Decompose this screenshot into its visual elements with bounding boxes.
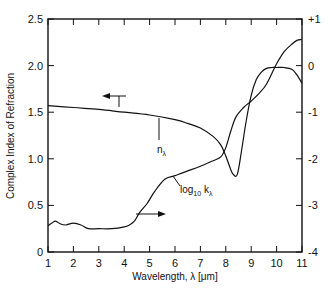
- y-left-tick-label: 1.5: [28, 106, 43, 118]
- log10-k-lambda-curve: [48, 40, 302, 229]
- y-right-tick-label: -3: [308, 199, 318, 211]
- x-tick-label: 9: [248, 257, 254, 269]
- log-k-annotation: log10 kλ: [136, 176, 213, 217]
- x-tick-label: 1: [45, 257, 51, 269]
- y-left-tick-label: 0.5: [28, 199, 43, 211]
- x-tick-label: 6: [172, 257, 178, 269]
- left-arrow-icon: [102, 93, 110, 99]
- x-tick-label: 10: [270, 257, 282, 269]
- x-tick-label: 11: [296, 257, 307, 269]
- y-right-tick-label: -4: [308, 246, 318, 258]
- x-tick-label: 3: [96, 257, 102, 269]
- left-y-axis-ticks: 00.51.01.52.02.5: [28, 13, 54, 258]
- y-right-tick-label: -2: [308, 153, 318, 165]
- y-left-tick-label: 2.0: [28, 60, 43, 72]
- y-axis-title: Complex Index of Refraction: [5, 73, 16, 199]
- n-lambda-annotation: nλ: [102, 93, 167, 157]
- y-left-tick-label: 2.5: [28, 13, 43, 25]
- k-label-leader: [173, 176, 180, 186]
- x-tick-label: 5: [147, 257, 153, 269]
- y-left-tick-label: 0: [37, 246, 43, 258]
- x-tick-label: 7: [197, 257, 203, 269]
- y-right-tick-label: -1: [308, 106, 318, 118]
- x-axis-title: Wavelength, λ [μm]: [132, 271, 218, 282]
- n-label-subscript: λ: [163, 150, 167, 157]
- n-lambda-curve: [48, 67, 302, 176]
- plot-frame: [48, 19, 302, 252]
- x-tick-label: 8: [223, 257, 229, 269]
- y-left-tick-label: 1.0: [28, 153, 43, 165]
- right-y-axis-ticks: -4-3-2-10+1: [296, 13, 321, 258]
- k-label-log: log: [180, 184, 193, 195]
- k-label-subscript: λ: [209, 190, 213, 197]
- x-tick-label: 2: [70, 257, 76, 269]
- svg-text:nλ: nλ: [157, 144, 167, 157]
- n-arrow-leader: [119, 96, 126, 107]
- x-axis-ticks: 1234567891011: [45, 19, 308, 269]
- k-label-base: 10: [193, 190, 201, 197]
- right-arrow-icon: [158, 211, 166, 217]
- x-tick-label: 4: [121, 257, 127, 269]
- y-right-tick-label: +1: [308, 13, 321, 25]
- chart: 1234567891011 00.51.01.52.02.5 -4-3-2-10…: [0, 0, 333, 301]
- y-right-tick-label: 0: [308, 60, 314, 72]
- svg-text:log10 kλ: log10 kλ: [180, 184, 213, 197]
